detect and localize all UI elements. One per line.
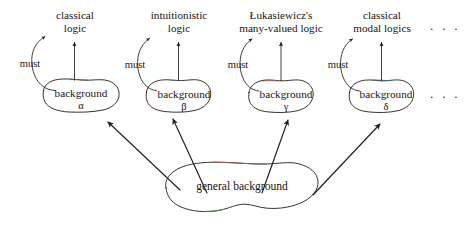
must-label-gamma: must xyxy=(216,59,260,71)
must-label-beta: must xyxy=(113,59,157,71)
node-label-alpha-text: background xyxy=(55,87,108,99)
node-label-delta: background δ xyxy=(347,88,425,114)
logic-label-beta-line2: logic xyxy=(168,22,190,34)
logic-label-beta-line1: intuitionistic xyxy=(151,9,208,21)
node-symbol-alpha: α xyxy=(42,100,120,113)
logic-label-delta-line1: classical xyxy=(363,9,401,21)
logic-label-gamma-line1: Łukasiewicz's xyxy=(250,9,313,21)
node-label-delta-text: background xyxy=(360,88,413,100)
node-label-general-background: general background xyxy=(182,180,302,193)
logic-label-delta-line2: modal logics xyxy=(353,22,410,34)
node-symbol-delta: δ xyxy=(347,101,425,114)
logic-label-beta: intuitionistic logic xyxy=(137,9,221,34)
logic-label-alpha: classical logic xyxy=(34,9,116,34)
must-label-alpha: must xyxy=(8,58,52,70)
must-label-delta: must xyxy=(316,59,360,71)
node-label-gamma: background γ xyxy=(247,88,325,114)
node-symbol-beta: β xyxy=(145,101,223,114)
arrow-general-to-delta xyxy=(313,124,380,195)
diagram-vector-layer xyxy=(0,0,464,228)
node-label-gamma-text: background xyxy=(260,88,313,100)
logic-label-alpha-line1: classical xyxy=(56,9,94,21)
ellipsis-top-right: · · · xyxy=(428,22,462,37)
logic-label-delta: classical modal logics xyxy=(340,9,424,34)
node-label-beta: background β xyxy=(145,88,223,114)
node-label-alpha: background α xyxy=(42,87,120,113)
logic-label-gamma-line2: many-valued logic xyxy=(239,22,323,34)
ellipsis-middle-right: · · · xyxy=(428,90,462,105)
diagram-canvas: classical logic must background α intuit… xyxy=(0,0,464,228)
node-label-beta-text: background xyxy=(158,88,211,100)
node-symbol-gamma: γ xyxy=(247,101,325,114)
logic-label-alpha-line2: logic xyxy=(64,22,86,34)
arrow-general-to-alpha xyxy=(108,122,180,190)
logic-label-gamma: Łukasiewicz's many-valued logic xyxy=(226,9,336,34)
